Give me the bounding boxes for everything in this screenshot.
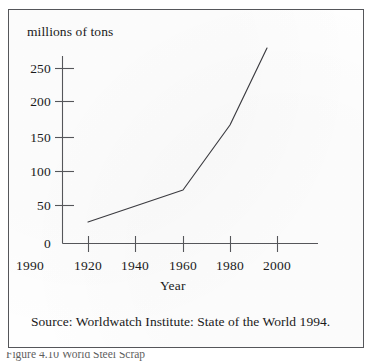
y-tick-label-0: 0 <box>11 237 51 251</box>
y-axis-unit-label: millions of tons <box>27 25 113 39</box>
x-tick-label-1980: 1980 <box>207 259 253 273</box>
clipped-figure-caption-text: Figure 4.10 World Steel Scrap <box>6 352 246 360</box>
x-tick-label-1940: 1940 <box>112 259 158 273</box>
data-series-line <box>88 48 267 222</box>
y-tick-label-50: 50 <box>11 199 51 213</box>
x-axis-title: Year <box>160 279 186 293</box>
y-axis-ticks <box>55 69 74 206</box>
x-tick-label-1990: 1990 <box>7 259 53 273</box>
x-tick-label-1920: 1920 <box>65 259 111 273</box>
x-tick-label-1960: 1960 <box>160 259 206 273</box>
x-tick-label-2000: 2000 <box>254 259 300 273</box>
clipped-figure-caption: Figure 4.10 World Steel Scrap <box>6 352 246 361</box>
y-tick-label-250: 250 <box>11 62 51 76</box>
y-tick-label-150: 150 <box>11 131 51 145</box>
line-chart: millions of tons 250 200 150 100 50 0 19… <box>0 0 373 361</box>
y-tick-label-100: 100 <box>11 165 51 179</box>
source-note: Source: Worldwatch Institute: State of t… <box>31 315 330 329</box>
y-tick-label-200: 200 <box>11 95 51 109</box>
chart-canvas <box>0 0 373 361</box>
